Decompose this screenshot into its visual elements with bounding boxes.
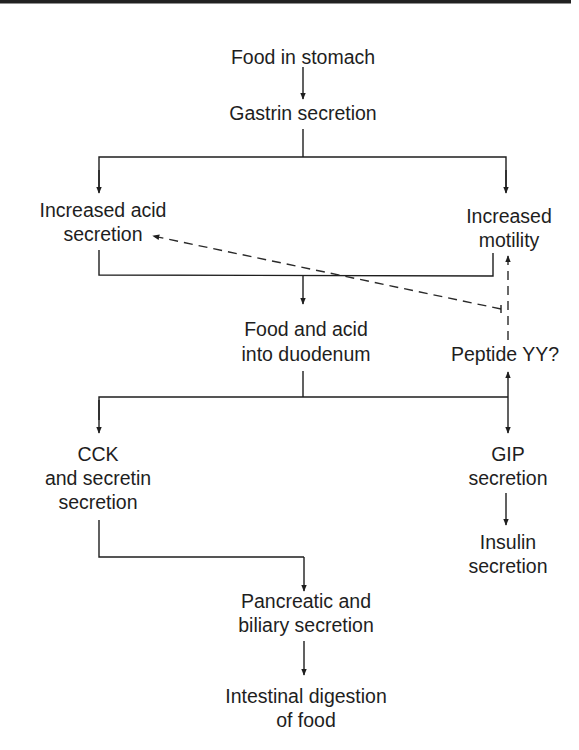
gastrointestinal-hormone-flowchart: Food in stomach Gastrin secretion Increa… [0,0,579,750]
node-label-line-1: Food and acid [244,318,368,340]
node-increased-motility: Increased motility [466,205,552,251]
node-label-line-1: CCK [77,443,118,465]
node-label-line-2: of food [276,709,336,731]
connector-merge-bracket [99,250,493,276]
node-insulin-secretion: Insulin secretion [468,531,547,577]
node-label-line-2: and secretin [45,467,151,489]
node-label-line-2: biliary secretion [238,614,373,636]
node-label: Food in stomach [231,46,375,68]
node-food-in-stomach: Food in stomach [231,46,375,68]
node-label-line-1: GIP [491,443,525,465]
node-label-line-1: Pancreatic and [241,590,371,612]
node-label-line-1: Intestinal digestion [225,685,387,707]
connector-duodenum-split [99,397,508,420]
node-label-line-2: secretion [468,555,547,577]
node-gastrin-secretion: Gastrin secretion [229,102,376,124]
connector-gastrin-split [99,157,506,192]
node-cck-secretin: CCK and secretin secretion [45,443,151,513]
node-label-line-2: secretion [63,223,142,245]
connector-cck-to-pancreatic [99,520,304,557]
node-label-line-2: motility [479,229,540,251]
node-increased-acid-secretion: Increased acid secretion [40,199,167,245]
node-pancreatic-biliary-secretion: Pancreatic and biliary secretion [238,590,373,636]
node-label-line-2: secretion [468,467,547,489]
node-label: Peptide YY? [451,343,559,365]
node-label-line-1: Increased [466,205,552,227]
node-label-line-2: into duodenum [241,343,370,365]
node-label: Gastrin secretion [229,102,376,124]
node-gip-secretion: GIP secretion [468,443,547,489]
node-peptide-yy: Peptide YY? [451,343,559,365]
node-label-line-3: secretion [58,491,137,513]
node-food-acid-duodenum: Food and acid into duodenum [241,318,370,365]
node-label-line-1: Increased acid [40,199,167,221]
node-label-line-1: Insulin [480,531,536,553]
dashed-arrow-peptide-to-acid [153,236,501,309]
node-intestinal-digestion: Intestinal digestion of food [225,685,387,731]
